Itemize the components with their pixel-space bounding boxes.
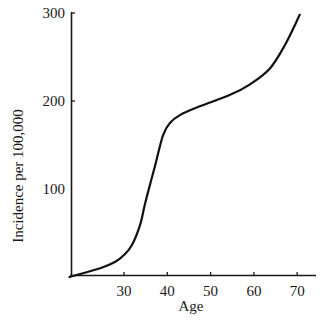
y-axis: 100200300	[43, 5, 76, 276]
x-tick-label: 30	[117, 283, 132, 299]
x-axis: 3040506070	[70, 272, 316, 299]
line-chart: 100200300 3040506070 Age Incidence per 1…	[0, 0, 323, 320]
x-tick-label: 60	[246, 283, 261, 299]
x-axis-label: Age	[179, 298, 204, 314]
x-tick-label: 50	[203, 283, 218, 299]
x-tick-label: 40	[160, 283, 175, 299]
y-axis-label: Incidence per 100,000	[10, 109, 26, 243]
y-tick-label: 300	[43, 5, 66, 21]
y-tick-label: 200	[43, 93, 66, 109]
incidence-curve	[69, 15, 299, 277]
y-tick-label: 100	[43, 181, 66, 197]
x-tick-label: 70	[290, 283, 305, 299]
